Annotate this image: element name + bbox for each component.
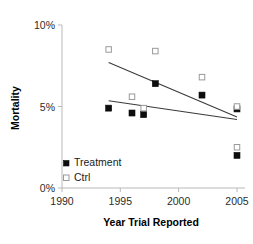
data-point-ctrl-3 bbox=[153, 48, 159, 54]
data-point-ctrl-6 bbox=[234, 145, 240, 151]
legend-label-ctrl: Ctrl bbox=[74, 171, 90, 183]
data-point-treatment-0 bbox=[106, 105, 112, 111]
x-tick-label-1995: 1995 bbox=[109, 195, 133, 207]
data-point-treatment-3 bbox=[152, 81, 158, 87]
x-tick-label-2005: 2005 bbox=[225, 195, 249, 207]
x-tick-label-1990: 1990 bbox=[50, 195, 74, 207]
trendline-ctrl bbox=[109, 101, 237, 120]
data-point-ctrl-1 bbox=[129, 94, 135, 100]
y-tick-label-10: 10% bbox=[34, 19, 55, 31]
data-point-ctrl-4 bbox=[199, 74, 205, 80]
legend-marker-ctrl bbox=[64, 175, 70, 181]
data-point-treatment-6 bbox=[234, 152, 240, 158]
chart-legend: Treatment Ctrl bbox=[64, 156, 122, 183]
legend-label-treatment: Treatment bbox=[74, 156, 122, 168]
trendline-treatment bbox=[109, 62, 237, 117]
chart-canvas: 10% 5% 0% 1990 1995 2000 2005 Year Trial… bbox=[0, 0, 253, 244]
y-axis-title: Mortality bbox=[9, 86, 21, 130]
y-tick-label-5: 5% bbox=[40, 101, 55, 113]
data-point-ctrl-2 bbox=[141, 105, 147, 111]
y-tick-label-0: 0% bbox=[40, 182, 55, 194]
x-tick-label-2000: 2000 bbox=[167, 195, 191, 207]
mortality-scatter-chart: 10% 5% 0% 1990 1995 2000 2005 Year Trial… bbox=[0, 0, 253, 244]
plot-data-layer bbox=[106, 47, 240, 159]
data-point-treatment-1 bbox=[129, 110, 135, 116]
data-point-treatment-4 bbox=[199, 92, 205, 98]
data-point-ctrl-0 bbox=[106, 47, 112, 53]
legend-marker-treatment bbox=[64, 161, 70, 167]
data-point-treatment-2 bbox=[141, 112, 147, 118]
data-point-ctrl-5 bbox=[234, 104, 240, 110]
x-axis-title: Year Trial Reported bbox=[103, 216, 199, 228]
